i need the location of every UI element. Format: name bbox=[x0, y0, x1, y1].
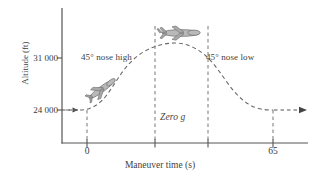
y-tick-label-31000: 31 000 bbox=[18, 53, 58, 63]
x-axis-label: Maneuver time (s) bbox=[0, 160, 320, 170]
exit-arrow-head-icon bbox=[299, 107, 307, 113]
y-axis-label: Altitude (ft) bbox=[20, 24, 30, 102]
y-tick-label-24000: 24 000 bbox=[18, 105, 58, 115]
annotation-zero-g: Zero g bbox=[160, 113, 185, 123]
annotation-nose-low: 45° nose low bbox=[206, 53, 254, 62]
annotation-nose-high: 45° nose high bbox=[81, 53, 132, 62]
x-tick-label-0: 0 bbox=[76, 146, 98, 156]
parabolic-flight-altitude-chart: Altitude (ft) Maneuver time (s) 31 000 2… bbox=[0, 0, 320, 181]
x-tick-label-65: 65 bbox=[262, 146, 284, 156]
aircraft-level-icon bbox=[157, 26, 200, 40]
